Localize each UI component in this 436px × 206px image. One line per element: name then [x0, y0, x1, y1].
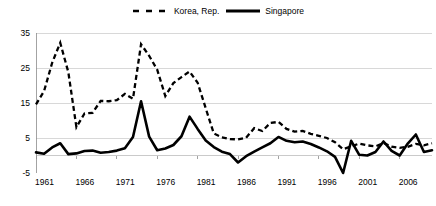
x-axis-tick-labels: 1961196619711976198119861991199620012006: [35, 177, 418, 187]
x-axis-tick-label: 2006: [399, 177, 418, 187]
y-axis-tick-label: 5: [25, 133, 30, 143]
y-axis-tick-labels: 3525155-5: [21, 28, 31, 178]
x-axis-tick-label: 1996: [318, 177, 337, 187]
x-axis-tick-label: 1981: [197, 177, 216, 187]
x-axis-tick-label: 1986: [237, 177, 256, 187]
x-axis-tick-label: 1966: [75, 177, 94, 187]
x-axis-tick-label: 1991: [277, 177, 296, 187]
series-line-singapore: [36, 101, 432, 173]
y-axis-tick-label: 15: [21, 98, 31, 108]
x-axis-tick-label: 1971: [116, 177, 135, 187]
line-chart: Korea, Rep. Singapore 3525155-5 19611966…: [0, 0, 436, 206]
x-axis-tick-label: 2001: [358, 177, 377, 187]
series-line-korea: [36, 43, 432, 149]
y-axis-tick-label: 25: [21, 63, 31, 73]
x-axis-tick-label: 1976: [156, 177, 175, 187]
x-axis-tick-label: 1961: [35, 177, 54, 187]
y-axis-tick-label: -5: [22, 168, 30, 178]
y-axis-tick-label: 35: [21, 28, 31, 38]
gridlines: [36, 33, 432, 156]
plot-area: 3525155-5 196119661971197619811986199119…: [0, 0, 436, 206]
